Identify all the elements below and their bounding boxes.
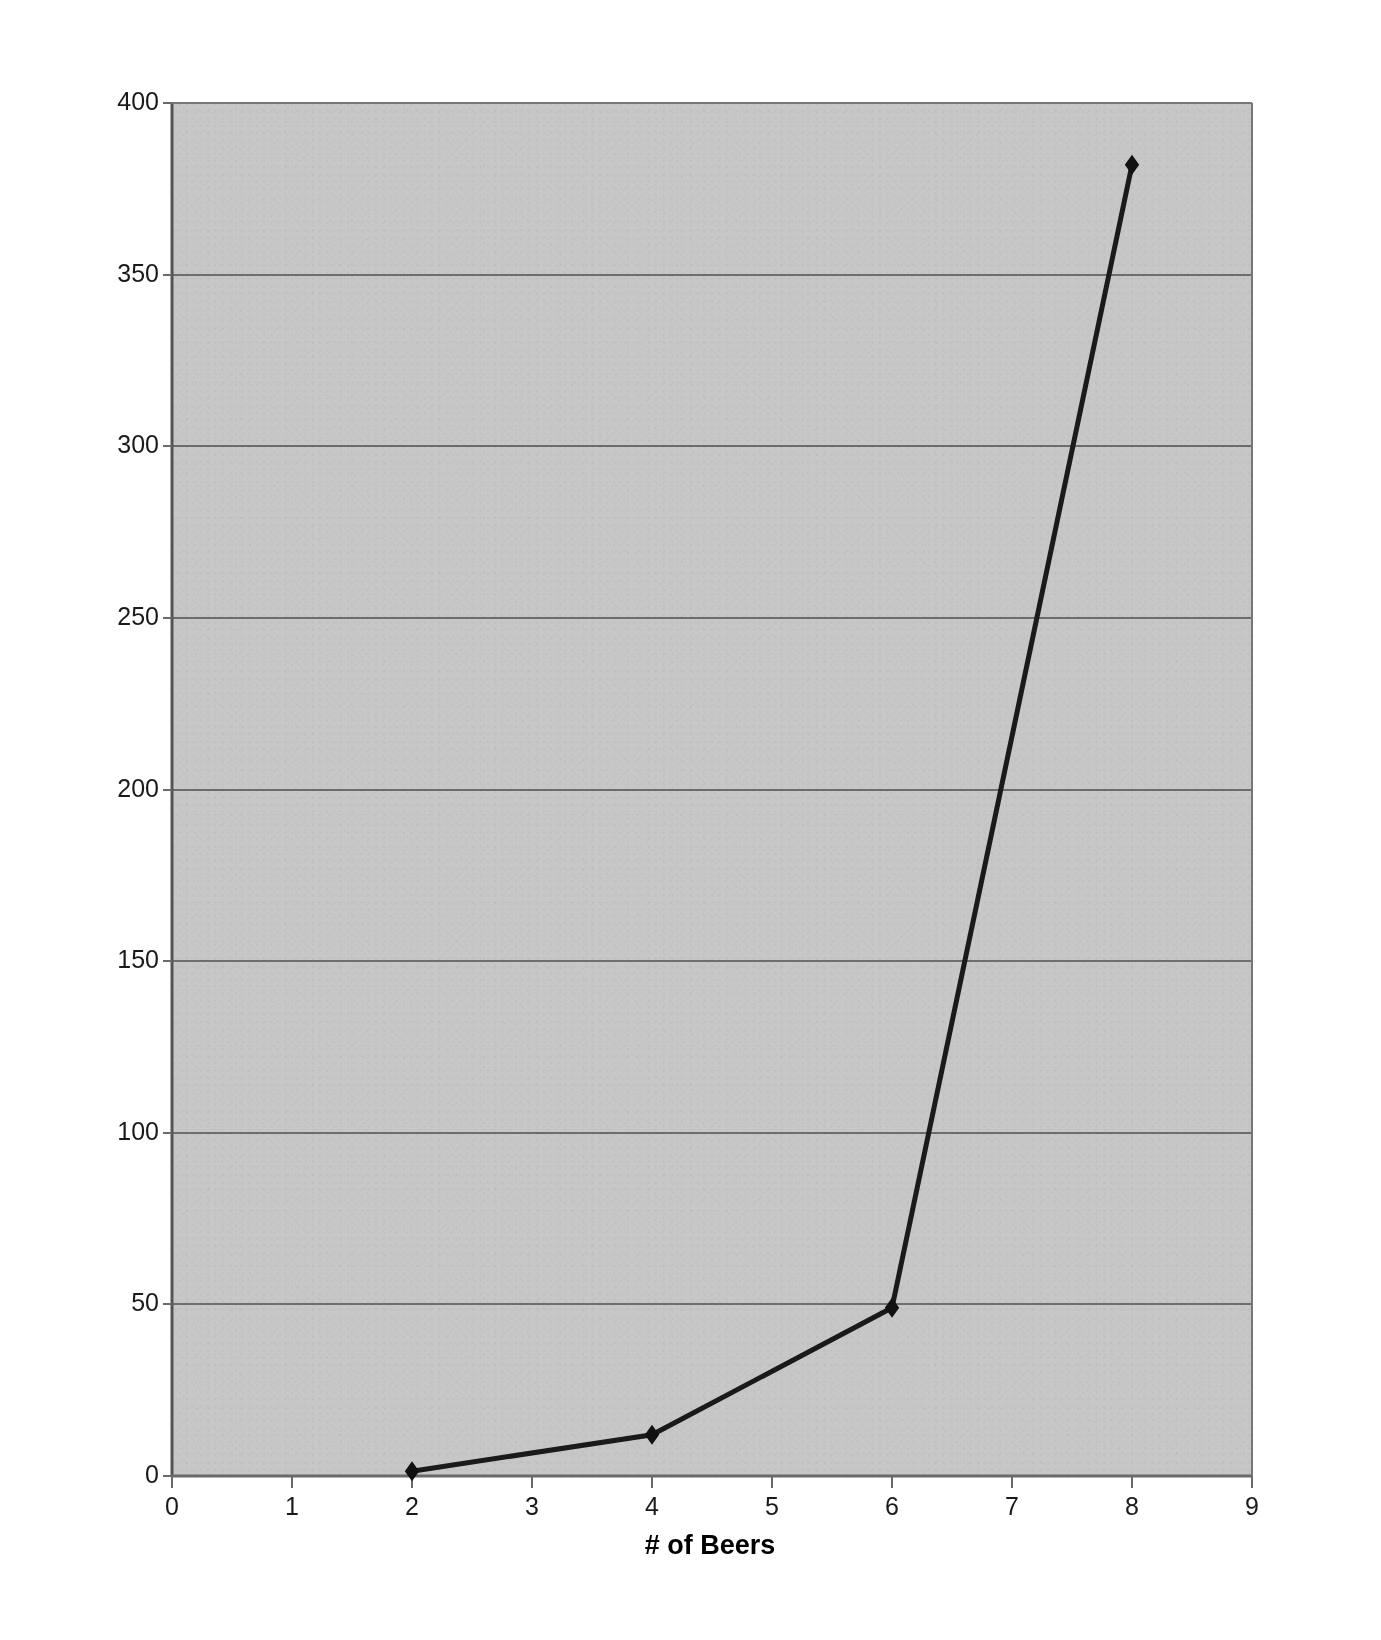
y-tick-label-350: 350 xyxy=(39,261,159,286)
x-tick-marks xyxy=(172,1476,1252,1488)
x-tick-label-5: 5 xyxy=(732,1494,812,1519)
y-tick-label-400: 400 xyxy=(39,89,159,114)
x-tick-label-0: 0 xyxy=(132,1494,212,1519)
x-tick-label-8: 8 xyxy=(1092,1494,1172,1519)
y-tick-label-300: 300 xyxy=(39,432,159,457)
data-point-marker xyxy=(645,1425,659,1445)
paper-texture xyxy=(172,103,1252,1476)
y-tick-marks xyxy=(163,103,172,1476)
data-point-marker xyxy=(885,1298,899,1318)
y-tick-label-250: 250 xyxy=(39,604,159,629)
x-tick-label-7: 7 xyxy=(972,1494,1052,1519)
y-tick-label-100: 100 xyxy=(39,1119,159,1144)
y-axis-title: Likelihood of accident (* times-fold inc… xyxy=(0,0,96,1640)
x-tick-label-4: 4 xyxy=(612,1494,692,1519)
y-tick-label-50: 50 xyxy=(39,1290,159,1315)
x-tick-label-3: 3 xyxy=(492,1494,572,1519)
gridlines xyxy=(172,103,1252,1304)
x-axis-title: # of Beers xyxy=(165,1530,1255,1561)
x-tick-label-9: 9 xyxy=(1212,1494,1292,1519)
y-axis-title-text: Likelihood of accident (* times-fold inc… xyxy=(201,528,232,1112)
y-tick-label-0: 0 xyxy=(39,1462,159,1487)
x-tick-label-1: 1 xyxy=(252,1494,332,1519)
plot-background xyxy=(172,103,1252,1476)
data-point-marker xyxy=(1125,155,1139,175)
chart-figure: Likelihood of accident (* times-fold inc… xyxy=(0,0,1381,1640)
series-markers xyxy=(405,155,1139,1481)
x-tick-label-6: 6 xyxy=(852,1494,932,1519)
data-point-marker xyxy=(405,1461,419,1481)
series-line xyxy=(412,165,1132,1471)
x-tick-label-2: 2 xyxy=(372,1494,452,1519)
y-tick-label-150: 150 xyxy=(39,947,159,972)
y-tick-label-200: 200 xyxy=(39,776,159,801)
